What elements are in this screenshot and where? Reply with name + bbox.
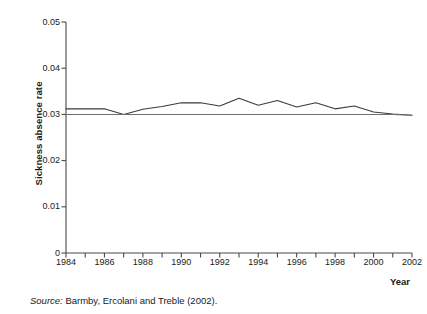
x-axis-tick-label: 2002 (392, 258, 427, 267)
y-axis-tick-label: 0.02 (26, 156, 60, 165)
x-axis-tick-label: 1998 (315, 258, 355, 267)
y-axis-tick-label: 0.01 (26, 202, 60, 211)
x-axis-tick-label: 1996 (277, 258, 317, 267)
y-axis-tick-label: 0.03 (26, 110, 60, 119)
x-axis-tick-label: 1986 (84, 258, 124, 267)
y-axis-tick-label: 0.05 (26, 18, 60, 27)
source-citation: Barmby, Ercolani and Treble (2002). (63, 295, 218, 306)
y-axis-tick-label: 0 (26, 249, 60, 258)
x-axis-tick-label: 1994 (238, 258, 278, 267)
x-axis-tick-label: 2000 (354, 258, 394, 267)
series-line-reference (66, 114, 412, 115)
x-axis-tick-label: 1984 (46, 258, 86, 267)
source-note: Source: Barmby, Ercolani and Treble (200… (30, 295, 217, 306)
series-line-sickness-absence-rate (66, 98, 412, 115)
y-axis-tick-label: 0.04 (26, 64, 60, 73)
x-axis-tick-label: 1992 (200, 258, 240, 267)
x-axis-tick-label: 1988 (123, 258, 163, 267)
x-axis-title: Year (390, 276, 410, 287)
source-label: Source: (30, 295, 63, 306)
x-axis-tick-label: 1990 (161, 258, 201, 267)
